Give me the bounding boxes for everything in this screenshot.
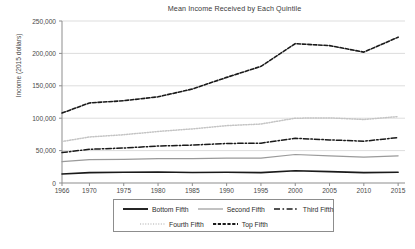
series-line-second-fifth [62, 154, 398, 161]
series-line-top-fifth [62, 37, 398, 113]
legend-item-third-fifth: Third Fifth [274, 205, 334, 213]
x-tick-label: 2015 [391, 187, 406, 194]
legend-label: Second Fifth [227, 206, 265, 213]
chart-legend: Bottom Fifth Second Fifth Third Fifth Fo… [113, 199, 334, 232]
legend-item-top-fifth: Top Fifth [213, 220, 268, 228]
x-tick-label: 1995 [254, 187, 269, 194]
legend-swatch-fourth-fifth [140, 220, 165, 228]
legend-item-second-fifth: Second Fifth [198, 205, 265, 213]
legend-label: Fourth Fifth [169, 221, 204, 228]
legend-swatch-third-fifth [274, 205, 299, 213]
x-tick-label: 1966 [55, 187, 70, 194]
x-tick-label: 1990 [219, 187, 234, 194]
legend-label: Top Fifth [242, 221, 268, 228]
x-tick-label: 2005 [322, 187, 337, 194]
legend-label: Bottom Fifth [152, 206, 189, 213]
legend-item-bottom-fifth: Bottom Fifth [123, 205, 189, 213]
legend-item-fourth-fifth: Fourth Fifth [140, 220, 204, 228]
chart-figure: Mean Income Received by Each Quintile In… [0, 0, 415, 249]
x-tick-label: 2000 [288, 187, 303, 194]
legend-swatch-bottom-fifth [123, 205, 148, 213]
series-line-fourth-fifth [62, 117, 398, 142]
series-line-bottom-fifth [62, 171, 398, 174]
legend-swatch-top-fifth [213, 220, 238, 228]
x-tick-label: 1975 [116, 187, 131, 194]
legend-label: Third Fifth [303, 206, 334, 213]
legend-swatch-second-fifth [198, 205, 223, 213]
x-tick-label: 2010 [356, 187, 371, 194]
x-tick-label: 1980 [151, 187, 166, 194]
x-tick-label: 1985 [185, 187, 200, 194]
x-tick-label: 1970 [82, 187, 97, 194]
